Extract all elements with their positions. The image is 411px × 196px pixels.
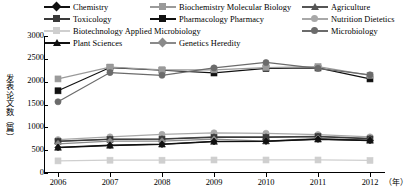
legend-label: Agriculture	[331, 3, 370, 12]
data-point-marker	[263, 59, 269, 65]
legend-label: Toxicology	[73, 15, 112, 24]
line-chart: Chemistry Biochemistry Molecular Biology…	[0, 0, 411, 196]
x-tick-mark	[266, 173, 267, 177]
data-point-marker	[367, 157, 373, 163]
y-tick-label: 500	[14, 146, 44, 154]
y-tick-label: 1000	[14, 123, 44, 131]
data-point-marker	[315, 157, 321, 163]
x-tick-mark	[162, 173, 163, 177]
y-axis-tick-labels: 300025002000150010005000	[14, 0, 44, 196]
data-point-marker	[55, 88, 61, 94]
data-point-marker	[211, 65, 217, 71]
legend-label: Chemistry	[73, 3, 108, 12]
legend-item-agriculture[interactable]: Agriculture	[302, 2, 370, 12]
y-tick-label: 2000	[14, 77, 44, 85]
x-tick-label: 2007	[90, 178, 130, 187]
data-point-marker	[211, 157, 217, 163]
y-tick-label: 2500	[14, 54, 44, 62]
data-point-marker	[367, 72, 373, 78]
legend-item-pharmacology-pharmacy[interactable]: Pharmacology Pharmacy	[150, 14, 264, 24]
x-tick-label: 2012	[350, 178, 390, 187]
data-point-marker	[107, 157, 113, 163]
nutrition-dietetics-marker-icon	[302, 14, 328, 24]
data-point-marker	[159, 72, 165, 78]
microbiology-marker-icon	[302, 26, 328, 36]
x-tick-mark	[110, 173, 111, 177]
series-canvas	[44, 36, 384, 173]
x-tick-label: 2010	[246, 178, 286, 187]
x-tick-label: 2008	[142, 178, 182, 187]
x-tick-mark	[318, 173, 319, 177]
y-tick-label: 0	[14, 169, 44, 177]
legend-item-toxicology[interactable]: Toxicology	[44, 14, 112, 24]
legend-item-biochemistry-molecular-biology[interactable]: Biochemistry Molecular Biology	[150, 2, 291, 12]
legend-label: Biochemistry Molecular Biology	[179, 3, 291, 12]
x-tick-label: 2006	[38, 178, 78, 187]
legend-item-microbiology[interactable]: Microbiology	[302, 26, 378, 36]
series-biotechnology-applied-microbiology	[55, 157, 373, 164]
data-point-marker	[107, 69, 113, 75]
y-tick-label: 1500	[14, 100, 44, 108]
y-tick-label: 3000	[14, 32, 44, 40]
x-tick-label: 2011	[298, 178, 338, 187]
data-point-marker	[55, 99, 61, 105]
data-point-marker	[55, 76, 61, 82]
series-microbiology	[55, 59, 373, 104]
legend-item-nutrition-dietetics[interactable]: Nutrition Dietetics	[302, 14, 395, 24]
legend-item-biotechnology-applied-microbiology[interactable]: Biotechnology Applied Microbiology	[44, 26, 201, 36]
data-point-marker	[315, 65, 321, 71]
data-point-marker	[55, 158, 61, 164]
agriculture-marker-icon	[302, 2, 328, 12]
y-tick-mark	[44, 173, 48, 174]
legend-item-chemistry[interactable]: Chemistry	[44, 2, 108, 12]
x-tick-mark	[214, 173, 215, 177]
plot-area	[44, 36, 384, 173]
legend-label: Microbiology	[331, 27, 378, 36]
legend-label: Biotechnology Applied Microbiology	[73, 27, 201, 36]
pharmacology-pharmacy-marker-icon	[150, 14, 176, 24]
y-axis-title: 发表论文数（篇）	[1, 52, 13, 164]
data-point-marker	[263, 157, 269, 163]
legend-label: Nutrition Dietetics	[331, 15, 395, 24]
biochemistry-molecular-biology-marker-icon	[150, 2, 176, 12]
x-tick-mark	[370, 173, 371, 177]
data-point-marker	[159, 157, 165, 163]
x-tick-mark	[58, 173, 59, 177]
legend-label: Pharmacology Pharmacy	[179, 15, 264, 24]
x-tick-label: 2009	[194, 178, 234, 187]
